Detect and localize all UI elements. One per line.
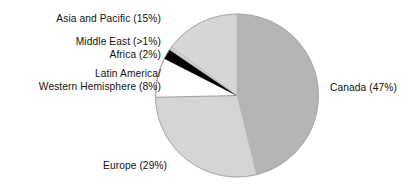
- pie-chart-graphic: [0, 0, 409, 193]
- pie-label-europe: Europe (29%): [103, 160, 167, 172]
- pie-label-latin-america-line1: Latin America/: [39, 68, 161, 81]
- pie-label-asia-pacific: Asia and Pacific (15%): [56, 13, 161, 25]
- pie-label-latin-america: Latin America/ Western Hemisphere (8%): [39, 68, 161, 93]
- pie-chart-figure: Asia and Pacific (15%) Middle East (>1%)…: [0, 0, 409, 193]
- pie-label-latin-america-line2: Western Hemisphere (8%): [39, 81, 161, 94]
- pie-label-middle-east: Middle East (>1%): [76, 36, 161, 48]
- pie-label-canada: Canada (47%): [330, 82, 397, 94]
- pie-label-africa: Africa (2%): [110, 49, 161, 61]
